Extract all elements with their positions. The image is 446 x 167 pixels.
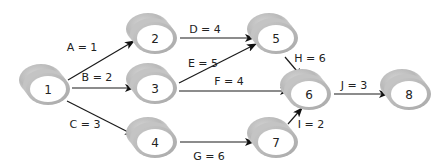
edge-B: B = 2 xyxy=(72,71,134,89)
node-label: 2 xyxy=(151,32,159,46)
node-8: 8 xyxy=(380,69,431,110)
node-label: 6 xyxy=(305,88,313,102)
node-label: 3 xyxy=(151,82,159,96)
edge-C: C = 3 xyxy=(67,101,134,135)
edge-label: I = 2 xyxy=(298,118,324,131)
node-label: 8 xyxy=(405,88,413,102)
edge-label: H = 6 xyxy=(294,52,325,65)
edge-J: J = 3 xyxy=(334,79,388,95)
edge-I: I = 2 xyxy=(288,108,324,131)
edge-label: B = 2 xyxy=(82,71,113,84)
node-3: 3 xyxy=(126,63,177,104)
node-label: 4 xyxy=(151,136,159,150)
edge-F: F = 4 xyxy=(179,75,289,92)
node-2: 2 xyxy=(126,13,177,54)
edge-label: A = 1 xyxy=(67,41,98,54)
edge-label: E = 5 xyxy=(188,57,218,70)
edge-label: F = 4 xyxy=(214,75,244,88)
edge-label: G = 6 xyxy=(193,150,225,163)
edge-G: G = 6 xyxy=(180,142,254,163)
edge-label: J = 3 xyxy=(340,79,367,92)
node-label: 1 xyxy=(44,83,52,97)
edge-D: D = 4 xyxy=(180,23,254,39)
node-7: 7 xyxy=(247,117,298,158)
network-diagram: A = 1B = 2C = 3D = 4E = 5F = 4G = 6H = 6… xyxy=(0,0,446,167)
edge-label: D = 4 xyxy=(189,23,221,36)
node-5: 5 xyxy=(247,13,298,54)
node-label: 7 xyxy=(272,136,280,150)
edge-label: C = 3 xyxy=(70,118,101,131)
node-4: 4 xyxy=(126,117,177,158)
node-6: 6 xyxy=(280,69,331,110)
edges-layer: A = 1B = 2C = 3D = 4E = 5F = 4G = 6H = 6… xyxy=(67,23,388,163)
node-label: 5 xyxy=(272,32,280,46)
node-1: 1 xyxy=(19,64,70,105)
